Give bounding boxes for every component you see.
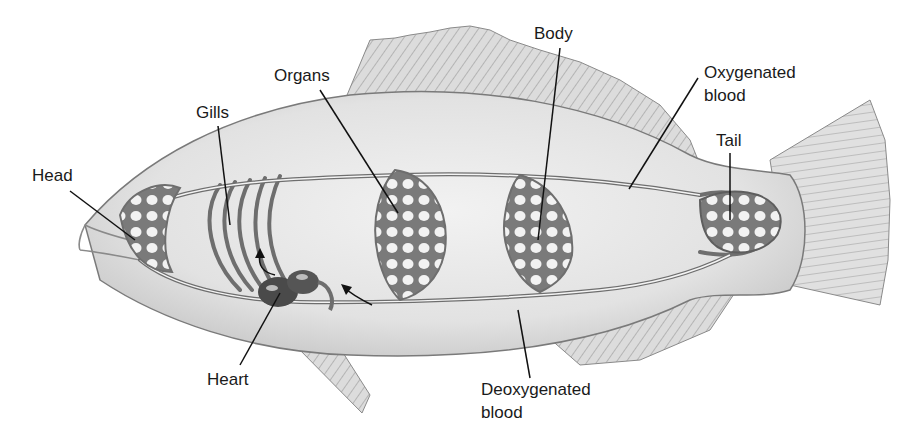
label-body: Body (534, 24, 573, 43)
label-oxygenated-line2: blood (704, 86, 746, 105)
fish-circulation-diagram: Head Gills Organs Body Oxygenated blood … (0, 0, 921, 439)
label-head: Head (32, 166, 73, 185)
label-oxygenated-line1: Oxygenated (704, 63, 796, 82)
label-gills: Gills (196, 103, 229, 122)
label-deoxygenated-line1: Deoxygenated (481, 380, 591, 399)
label-deoxygenated-line2: blood (481, 403, 523, 422)
tail-capillaries (700, 192, 781, 253)
label-heart: Heart (207, 370, 249, 389)
label-tail: Tail (716, 131, 742, 150)
label-organs: Organs (274, 66, 330, 85)
